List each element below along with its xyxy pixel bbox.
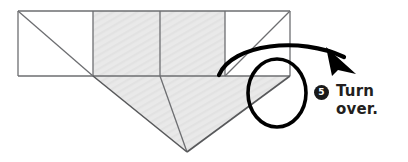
step-label: 5 Turn over.	[314, 82, 408, 118]
diagram-canvas: 5 Turn over.	[0, 0, 408, 162]
turn-over-arrow-head	[326, 47, 356, 76]
origami-figure	[0, 0, 408, 162]
step-instruction-text: Turn over.	[336, 82, 408, 118]
step-number-badge: 5	[314, 85, 329, 100]
shaded-triangle-point	[93, 76, 290, 152]
shaded-band-cells	[93, 11, 225, 76]
